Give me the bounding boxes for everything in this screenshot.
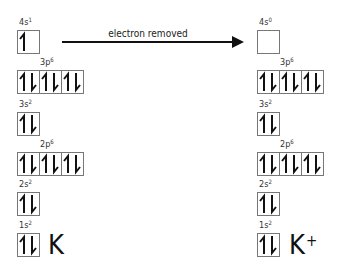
orbital-label-exponent: 2	[28, 98, 31, 105]
arrow-head-icon	[232, 36, 244, 48]
orbital-2s	[257, 192, 279, 216]
orbital-4s	[17, 30, 39, 54]
orbital-1s	[17, 233, 39, 257]
orbital-box	[39, 70, 62, 94]
orbital-label-exponent: 6	[290, 138, 293, 145]
orbital-4s	[257, 30, 279, 54]
half-arrow-up-icon	[302, 153, 312, 175]
arrow-label: electron removed	[62, 28, 234, 39]
orbital-box	[39, 152, 62, 176]
orbital-3p	[17, 70, 83, 94]
half-arrow-up-icon	[258, 71, 268, 93]
orbital-box	[279, 152, 302, 176]
orbital-label-exponent: 6	[50, 56, 53, 63]
orbital-label-shell: 4s	[259, 17, 268, 27]
half-arrow-up-icon	[280, 71, 290, 93]
orbital-box	[257, 233, 280, 257]
orbital-label-exponent: 2	[268, 98, 271, 105]
orbital-3s	[257, 112, 279, 136]
orbital-box	[17, 30, 40, 54]
orbital-box	[17, 70, 40, 94]
orbital-label-exponent: 6	[290, 56, 293, 63]
orbital-label-4s: 4s0	[259, 17, 272, 27]
orbital-box	[17, 233, 40, 257]
half-arrow-up-icon	[280, 153, 290, 175]
half-arrow-up-icon	[40, 153, 50, 175]
orbital-label-shell: 2p	[40, 139, 50, 149]
orbital-3p	[257, 70, 323, 94]
half-arrow-down-icon	[72, 71, 82, 93]
orbital-label-3p: 3p6	[40, 57, 54, 67]
orbital-1s	[257, 233, 279, 257]
orbital-label-4s: 4s1	[19, 17, 32, 27]
half-arrow-down-icon	[28, 193, 38, 215]
half-arrow-up-icon	[40, 71, 50, 93]
orbital-box	[257, 30, 280, 54]
half-arrow-down-icon	[268, 234, 278, 256]
orbital-label-shell: 3p	[40, 57, 50, 67]
transition-arrow: electron removed	[62, 26, 246, 48]
orbital-box	[17, 112, 40, 136]
orbital-box	[257, 152, 280, 176]
orbital-label-2s: 2s2	[19, 179, 32, 189]
half-arrow-up-icon	[302, 71, 312, 93]
half-arrow-up-icon	[18, 153, 28, 175]
orbital-label-3p: 3p6	[280, 57, 294, 67]
orbital-label-shell: 4s	[19, 17, 28, 27]
orbital-label-shell: 1s	[19, 220, 28, 230]
half-arrow-up-icon	[258, 153, 268, 175]
orbital-3s	[17, 112, 39, 136]
half-arrow-down-icon	[268, 153, 278, 175]
orbital-label-2p: 2p6	[280, 139, 294, 149]
orbital-box	[17, 192, 40, 216]
orbital-label-2s: 2s2	[259, 179, 272, 189]
orbital-2p	[257, 152, 323, 176]
half-arrow-down-icon	[312, 153, 322, 175]
orbital-box	[301, 70, 324, 94]
half-arrow-up-icon	[18, 193, 28, 215]
half-arrow-up-icon	[258, 113, 268, 135]
half-arrow-down-icon	[28, 71, 38, 93]
element-symbol-text: K	[48, 229, 64, 260]
orbital-box	[61, 152, 84, 176]
half-arrow-down-icon	[290, 71, 300, 93]
half-arrow-down-icon	[50, 71, 60, 93]
orbital-label-shell: 3s	[259, 99, 268, 109]
half-arrow-up-icon	[258, 234, 268, 256]
half-arrow-up-icon	[18, 31, 28, 53]
orbital-label-exponent: 0	[268, 16, 271, 23]
half-arrow-up-icon	[18, 234, 28, 256]
orbital-label-exponent: 2	[268, 219, 271, 226]
orbital-label-exponent: 6	[50, 138, 53, 145]
half-arrow-down-icon	[50, 153, 60, 175]
orbital-box	[257, 192, 280, 216]
orbital-2p	[17, 152, 83, 176]
half-arrow-up-icon	[18, 113, 28, 135]
half-arrow-down-icon	[28, 234, 38, 256]
orbital-label-2p: 2p6	[40, 139, 54, 149]
orbital-label-3s: 3s2	[19, 99, 32, 109]
orbital-label-exponent: 2	[28, 178, 31, 185]
orbital-box	[257, 70, 280, 94]
ion-symbol: K+	[289, 231, 317, 258]
orbital-label-exponent: 2	[28, 219, 31, 226]
half-arrow-down-icon	[290, 153, 300, 175]
half-arrow-down-icon	[72, 153, 82, 175]
half-arrow-down-icon	[312, 71, 322, 93]
half-arrow-down-icon	[268, 193, 278, 215]
orbital-label-shell: 2s	[259, 179, 268, 189]
half-arrow-down-icon	[268, 113, 278, 135]
half-arrow-up-icon	[62, 71, 72, 93]
half-arrow-down-icon	[268, 71, 278, 93]
orbital-label-shell: 2p	[280, 139, 290, 149]
orbital-label-exponent: 2	[268, 178, 271, 185]
orbital-label-shell: 3s	[19, 99, 28, 109]
half-arrow-down-icon	[28, 113, 38, 135]
orbital-box	[17, 152, 40, 176]
ion-symbol-text: K	[289, 229, 305, 260]
orbital-label-1s: 1s2	[259, 220, 272, 230]
half-arrow-up-icon	[18, 71, 28, 93]
orbital-label-3s: 3s2	[259, 99, 272, 109]
orbital-box	[301, 152, 324, 176]
orbital-label-shell: 1s	[259, 220, 268, 230]
